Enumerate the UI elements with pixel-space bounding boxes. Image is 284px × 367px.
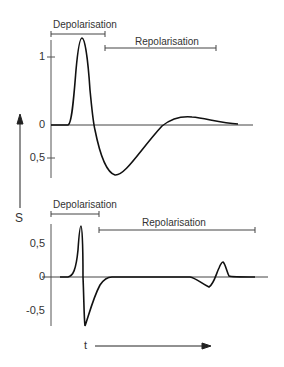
bottom-signal-curve <box>60 226 255 326</box>
top-tick-label-0: 0 <box>5 119 45 130</box>
top-repolarisation-label: Repolarisation <box>135 37 199 47</box>
bottom-chart <box>42 211 268 326</box>
y-axis-label: S <box>15 212 23 224</box>
bottom-depolarisation-label: Depolarisation <box>53 200 117 210</box>
x-axis-label: t <box>84 340 87 351</box>
top-chart <box>47 31 253 178</box>
top-tick-label-05: 0,5 <box>5 152 45 163</box>
top-depolarisation-label: Depolarisation <box>53 20 117 30</box>
bottom-tick-label-neg05: -0,5 <box>5 305 45 316</box>
bottom-depolarisation-bracket <box>51 211 99 217</box>
bottom-tick-label-0: 0 <box>5 271 45 282</box>
t-axis-arrow <box>95 343 211 349</box>
bottom-tick-label-05: 0,5 <box>5 238 45 249</box>
top-depolarisation-bracket <box>51 31 105 37</box>
top-tick-label-1: 1 <box>5 51 45 62</box>
top-signal-curve <box>51 38 238 175</box>
bottom-repolarisation-label: Repolarisation <box>142 218 206 228</box>
